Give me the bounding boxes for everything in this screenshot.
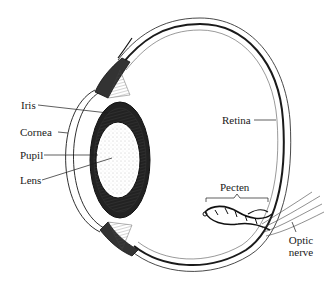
leader-lines [38,105,296,232]
label-iris: Iris [21,99,36,111]
eye-cross-section-drawing [0,0,327,290]
cornea-leader [58,132,68,133]
upper-ciliary-body [95,38,132,98]
label-pecten: Pecten [220,181,249,193]
pecten-brace [206,194,268,202]
pecten [203,206,272,230]
label-optic-nerve-line2: nerve [284,246,318,258]
eye-diagram: Iris Cornea Pupil Lens Retina Pecten Opt… [0,0,327,290]
label-pupil: Pupil [20,149,43,161]
lens [96,122,140,198]
label-retina: Retina [222,114,251,126]
label-optic-nerve-line1: Optic [284,234,318,246]
iris-leader [38,105,108,113]
lower-ciliary-body [100,222,138,256]
label-lens: Lens [20,174,41,186]
label-cornea: Cornea [20,126,52,138]
